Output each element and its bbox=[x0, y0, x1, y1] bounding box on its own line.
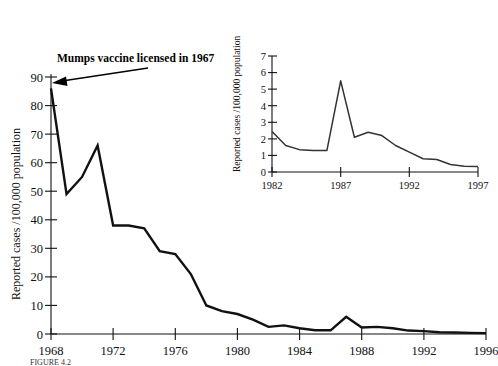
inset-x-tick-label: 1982 bbox=[262, 180, 283, 191]
inset-x-tick-labels: 1982 1987 1992 1997 bbox=[262, 180, 489, 191]
main-y-tick-label: 60 bbox=[31, 156, 44, 170]
figure-svg: Reported cases /100,000 population 0 10 bbox=[0, 0, 498, 366]
inset-y-tick-labels: 0 1 2 3 4 5 6 7 bbox=[261, 51, 267, 178]
main-x-tick-label: 1988 bbox=[349, 344, 374, 358]
vaccine-annotation-label: Mumps vaccine licensed in 1967 bbox=[57, 52, 214, 65]
main-x-tick-label: 1984 bbox=[287, 344, 313, 358]
main-x-tick-label: 1980 bbox=[225, 344, 250, 358]
main-x-tick-labels: 1968 1972 1976 1980 1984 1988 1992 1996 bbox=[39, 344, 498, 358]
main-y-tick-label: 70 bbox=[31, 128, 44, 142]
inset-series-line bbox=[272, 81, 478, 167]
main-y-tick-label: 0 bbox=[37, 328, 43, 342]
main-y-tick-label: 10 bbox=[31, 299, 44, 313]
main-x-tick-label: 1976 bbox=[163, 344, 188, 358]
main-y-axis-title: Reported cases /100,000 population bbox=[9, 128, 23, 300]
inset-chart: Reported cases /100,000 population 0 1 2… bbox=[232, 36, 489, 191]
inset-y-tick-label: 6 bbox=[261, 67, 266, 78]
main-series-line bbox=[51, 88, 486, 333]
main-y-tick-label: 40 bbox=[31, 213, 44, 227]
main-y-tick-label: 50 bbox=[31, 185, 44, 199]
main-y-tick-label: 90 bbox=[31, 71, 44, 85]
main-y-tick-label: 20 bbox=[31, 270, 44, 284]
main-y-tick-label: 80 bbox=[31, 99, 44, 113]
inset-x-tick-label: 1987 bbox=[330, 180, 351, 191]
main-x-tick-label: 1996 bbox=[474, 344, 498, 358]
main-x-tick-label: 1992 bbox=[411, 344, 436, 358]
inset-y-tick-label: 5 bbox=[261, 84, 266, 95]
inset-y-axis-title: Reported cases /100,000 population bbox=[232, 36, 242, 172]
inset-y-tick-label: 7 bbox=[261, 51, 266, 62]
inset-y-tick-label: 0 bbox=[261, 167, 266, 178]
figure-container: Reported cases /100,000 population 0 10 bbox=[0, 0, 498, 366]
inset-y-tick-label: 4 bbox=[261, 101, 267, 112]
inset-x-tick-label: 1997 bbox=[468, 180, 489, 191]
main-x-tick-label: 1968 bbox=[39, 344, 64, 358]
inset-x-tick-label: 1992 bbox=[399, 180, 420, 191]
main-y-tick-label: 30 bbox=[31, 242, 44, 256]
main-y-tick-labels: 0 10 20 30 40 50 60 70 80 90 bbox=[31, 71, 44, 342]
inset-y-tick-label: 2 bbox=[261, 134, 266, 145]
figure-caption: FIGURE 4.2 bbox=[30, 358, 71, 366]
main-chart: Reported cases /100,000 population 0 10 bbox=[9, 52, 498, 358]
main-x-tick-label: 1972 bbox=[101, 344, 126, 358]
inset-y-tick-label: 3 bbox=[261, 117, 266, 128]
inset-y-tick-label: 1 bbox=[261, 150, 266, 161]
annotation-arrow bbox=[52, 68, 148, 86]
